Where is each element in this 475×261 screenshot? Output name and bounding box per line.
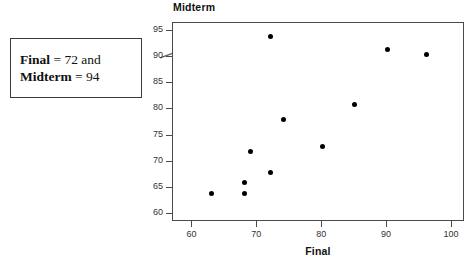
y-axis-tick-label: 95 [153, 24, 163, 34]
data-point [385, 47, 390, 52]
x-axis-tick-mark [191, 221, 192, 227]
y-axis-tick-label: 70 [153, 155, 163, 165]
x-axis-tick-mark [321, 221, 322, 227]
x-axis-tick-label: 60 [179, 229, 203, 239]
data-point [242, 191, 247, 196]
callout-line-midterm: Midterm = 94 [20, 68, 141, 85]
y-axis-tick-label: 65 [153, 181, 163, 191]
data-point [268, 34, 273, 39]
x-axis-tick: 90 [386, 221, 387, 241]
y-axis-tick-mark [166, 108, 172, 109]
scatter-plot-figure: _ _ _ _ _ _ Final = 72 and Midterm = 94 … [0, 0, 475, 261]
x-axis-title: Final [172, 245, 464, 257]
y-axis-tick-label: 60 [153, 207, 163, 217]
data-point [268, 170, 273, 175]
plot-area [172, 22, 464, 221]
data-point [248, 149, 253, 154]
callout-label-final: Final [20, 52, 50, 67]
y-axis-tick-label: 85 [153, 76, 163, 86]
annotation-callout-box: Final = 72 and Midterm = 94 [10, 38, 142, 98]
x-axis-tick-label: 80 [309, 229, 333, 239]
x-axis-tick-label: 90 [374, 229, 398, 239]
y-axis-tick-mark [166, 135, 172, 136]
data-point [242, 180, 247, 185]
callout-value-final: = 72 and [50, 52, 101, 67]
x-axis-tick-mark [256, 221, 257, 227]
y-axis-tick: 65 [150, 187, 172, 188]
y-axis-tick: 70 [150, 161, 172, 162]
y-axis-tick-label: 80 [153, 102, 163, 112]
data-point [320, 144, 325, 149]
y-axis-tick: 85 [150, 82, 172, 83]
y-axis-tick-mark [166, 161, 172, 162]
x-axis-tick-mark [386, 221, 387, 227]
x-axis-tick: 60 [191, 221, 192, 241]
y-axis-tick-label: 75 [153, 129, 163, 139]
data-point [352, 102, 357, 107]
callout-line-final: Final = 72 and [20, 51, 141, 68]
y-axis-tick: 80 [150, 108, 172, 109]
y-axis-tick-mark [166, 187, 172, 188]
callout-value-midterm: = 94 [72, 69, 100, 84]
y-axis-tick: 95 [150, 30, 172, 31]
y-axis-tick-mark [166, 82, 172, 83]
callout-label-midterm: Midterm [20, 69, 72, 84]
y-axis-tick-label: 90 [153, 50, 163, 60]
y-axis-tick: 60 [150, 213, 172, 214]
data-point [424, 52, 429, 57]
y-axis-tick-mark [166, 56, 172, 57]
x-axis-tick-label: 70 [244, 229, 268, 239]
page-edge-artifact: _ _ _ _ _ _ [0, 0, 475, 5]
y-axis-tick-mark [166, 30, 172, 31]
y-axis-tick-mark [166, 213, 172, 214]
x-axis-tick: 80 [321, 221, 322, 241]
x-axis-tick-label: 100 [439, 229, 463, 239]
y-axis-tick: 90 [150, 56, 172, 57]
x-axis-tick: 70 [256, 221, 257, 241]
y-axis-tick: 75 [150, 135, 172, 136]
x-axis-tick-mark [451, 221, 452, 227]
y-axis-title: Midterm [173, 1, 215, 13]
data-point [281, 117, 286, 122]
data-point [209, 191, 214, 196]
x-axis-tick: 100 [451, 221, 452, 241]
